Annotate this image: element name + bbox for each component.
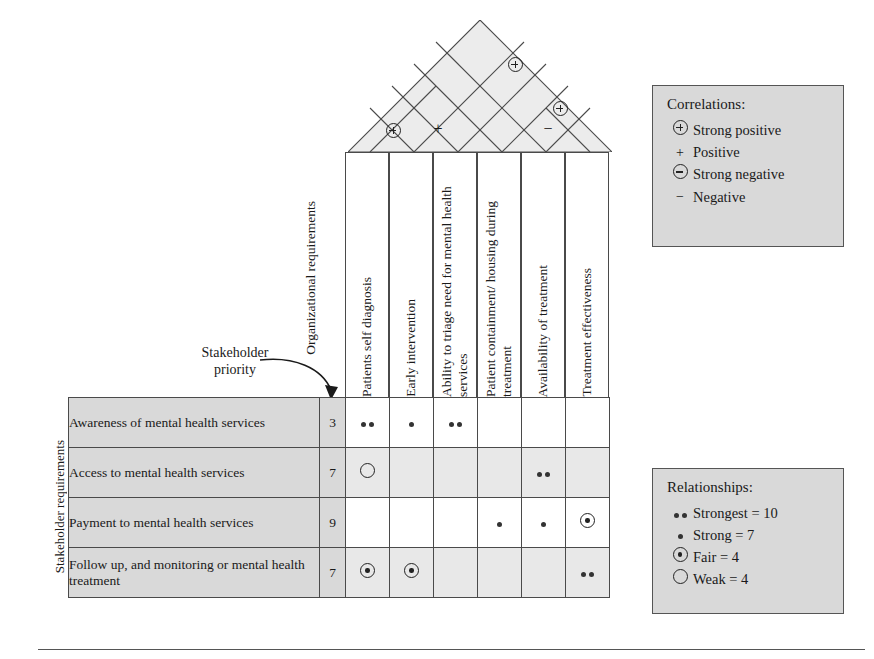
double-dot-icon: [448, 415, 464, 431]
row-label: Awareness of mental health services: [69, 398, 320, 448]
matrix-cell-r1c4[interactable]: [478, 398, 522, 448]
matrix-cell-r3c2[interactable]: [390, 498, 434, 548]
legend-item-label: Strong = 7: [693, 525, 754, 546]
matrix-cell-r1c1[interactable]: [346, 398, 390, 448]
matrix-cell-r1c5[interactable]: [522, 398, 566, 448]
double-dot-icon: [536, 465, 552, 481]
double-dot-icon: [580, 565, 596, 581]
ring-icon: [667, 569, 693, 590]
row-priority: 3: [320, 398, 346, 448]
matrix-cell-r3c3[interactable]: [434, 498, 478, 548]
table-row: Payment to mental health services 9: [69, 498, 610, 548]
legend-item-label: Negative: [693, 187, 745, 208]
legend-item-positive: + Positive: [667, 142, 831, 163]
legend-item-weak: Weak = 4: [667, 569, 831, 590]
plus-icon: +: [667, 143, 693, 163]
legend-item-strongest: Strongest = 10: [667, 503, 831, 524]
matrix-cell-r3c1[interactable]: [346, 498, 390, 548]
column-header-label: Treatment effectiveness: [579, 263, 595, 397]
matrix-cell-r2c5[interactable]: [522, 448, 566, 498]
dot-icon: [497, 515, 502, 531]
matrix-cell-r2c3[interactable]: [434, 448, 478, 498]
row-priority: 7: [320, 548, 346, 598]
relationship-matrix: Awareness of mental health services 3: [68, 397, 610, 598]
column-header-c5: Availability of treatment: [521, 152, 565, 397]
column-header-label: Ability to triage need for mental health…: [439, 154, 470, 397]
matrix-cell-r4c1[interactable]: [346, 548, 390, 598]
matrix-cell-r3c5[interactable]: [522, 498, 566, 548]
legend-item-strong-positive: Strong positive: [667, 120, 831, 141]
matrix-cell-r4c4[interactable]: [478, 548, 522, 598]
column-header-label: Patient containment/ housing during trea…: [483, 154, 514, 397]
roof-correlation-matrix: + −: [348, 20, 612, 152]
column-header-label: Availability of treatment: [535, 260, 551, 397]
legend-item-negative: − Negative: [667, 187, 831, 208]
relationships-legend: Relationships: Strongest = 10 Strong = 7…: [652, 468, 844, 614]
stakeholder-requirements-label: Stakeholder requirements: [52, 399, 68, 615]
matrix-cell-r3c6[interactable]: [566, 498, 610, 548]
hoq-table: Awareness of mental health services 3: [68, 397, 610, 598]
dot-icon: [409, 415, 414, 431]
matrix-cell-r2c4[interactable]: [478, 448, 522, 498]
table-row: Awareness of mental health services 3: [69, 398, 610, 448]
hoq-table-body: Awareness of mental health services 3: [69, 398, 610, 598]
matrix-cell-r1c6[interactable]: [566, 398, 610, 448]
row-label: Access to mental health services: [69, 448, 320, 498]
correlations-legend-title: Correlations:: [667, 96, 831, 113]
legend-item-label: Positive: [693, 142, 740, 163]
legend-item-label: Strong positive: [693, 120, 781, 141]
legend-item-label: Strong negative: [693, 164, 784, 185]
ring-dot-icon: [360, 563, 375, 578]
organizational-requirements-text: Organizational requirements: [303, 196, 319, 355]
column-header-label: Early intervention: [403, 294, 419, 397]
roof-grid: [348, 20, 612, 152]
matrix-cell-r4c5[interactable]: [522, 548, 566, 598]
legend-item-label: Weak = 4: [693, 569, 748, 590]
legend-item-strong-negative: Strong negative: [667, 164, 831, 185]
relationships-legend-list: Strongest = 10 Strong = 7 Fair = 4 Weak …: [667, 503, 831, 591]
double-dot-icon: [360, 415, 376, 431]
matrix-cell-r3c4[interactable]: [478, 498, 522, 548]
legend-item-label: Fair = 4: [693, 547, 739, 568]
dot-icon: [541, 515, 546, 531]
house-of-quality-diagram: + − Patients self diagnosis Early interv…: [0, 0, 874, 659]
column-header-label: Patients self diagnosis: [359, 272, 375, 397]
row-priority: 7: [320, 448, 346, 498]
correlations-legend-list: Strong positive + Positive Strong negati…: [667, 120, 831, 208]
ring-icon: [360, 463, 375, 478]
matrix-cell-r1c3[interactable]: [434, 398, 478, 448]
matrix-cell-r4c3[interactable]: [434, 548, 478, 598]
matrix-cell-r4c6[interactable]: [566, 548, 610, 598]
column-header-c3: Ability to triage need for mental health…: [433, 152, 477, 397]
column-header-c2: Early intervention: [389, 152, 433, 397]
double-dot-icon: [667, 503, 693, 524]
dot-icon: [667, 525, 693, 545]
matrix-cell-r4c2[interactable]: [390, 548, 434, 598]
matrix-cell-r2c6[interactable]: [566, 448, 610, 498]
organizational-requirements-label: Organizational requirements: [303, 196, 319, 355]
stakeholder-requirements-text: Stakeholder requirements: [52, 440, 68, 573]
row-label: Payment to mental health services: [69, 498, 320, 548]
relationships-legend-title: Relationships:: [667, 479, 831, 496]
legend-item-fair: Fair = 4: [667, 547, 831, 568]
matrix-cell-r2c1[interactable]: [346, 448, 390, 498]
correlations-legend: Correlations: Strong positive + Positive…: [652, 85, 844, 247]
bottom-divider: [38, 649, 865, 650]
circle-plus-icon: [667, 120, 693, 141]
column-header-c6: Treatment effectiveness: [565, 152, 609, 397]
minus-icon: −: [667, 187, 693, 207]
column-header-c1: Patients self diagnosis: [345, 152, 389, 397]
matrix-cell-r1c2[interactable]: [390, 398, 434, 448]
matrix-cell-r2c2[interactable]: [390, 448, 434, 498]
table-row: Access to mental health services 7: [69, 448, 610, 498]
ring-dot-icon: [667, 547, 693, 568]
table-row: Follow up, and monitoring or mental heal…: [69, 548, 610, 598]
legend-item-label: Strongest = 10: [693, 503, 778, 524]
legend-item-strong: Strong = 7: [667, 525, 831, 546]
ring-dot-icon: [580, 513, 595, 528]
row-label: Follow up, and monitoring or mental heal…: [69, 548, 320, 598]
circle-minus-icon: [667, 164, 693, 185]
column-header-c4: Patient containment/ housing during trea…: [477, 152, 521, 397]
row-priority: 9: [320, 498, 346, 548]
ring-dot-icon: [404, 563, 419, 578]
